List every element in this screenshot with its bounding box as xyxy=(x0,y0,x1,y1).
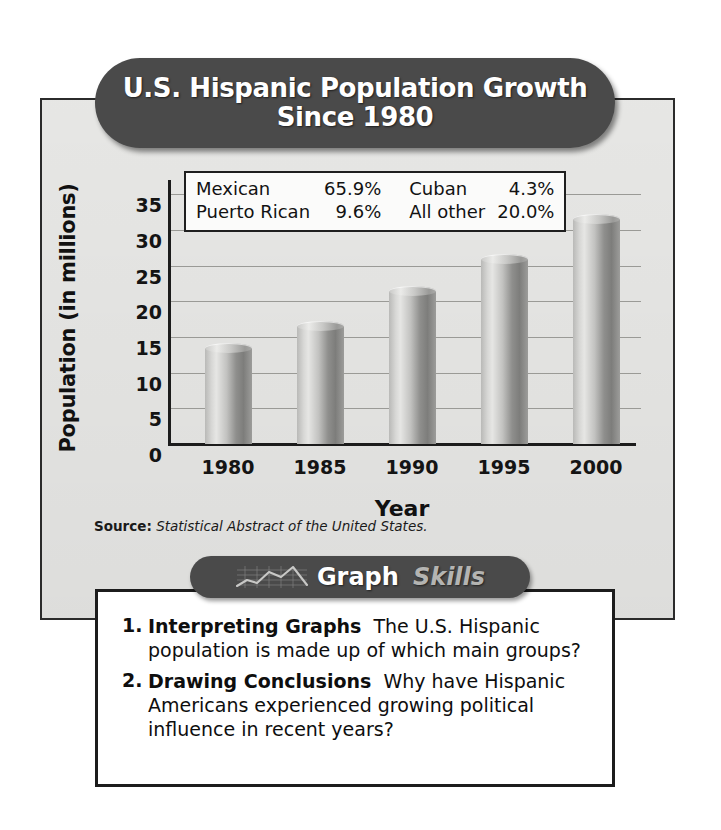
bar-cap xyxy=(205,343,252,353)
y-tick-label: 30 xyxy=(136,230,162,252)
x-tick-label: 1990 xyxy=(386,456,439,478)
question-body: Interpreting Graphs The U.S. Hispanic po… xyxy=(148,614,586,663)
legend-cell: 9.6% xyxy=(324,201,409,224)
y-axis-label: Population (in millions) xyxy=(56,168,80,468)
line-chart-icon xyxy=(235,564,309,590)
y-tick-label: 25 xyxy=(136,266,162,288)
y-tick-label: 35 xyxy=(136,194,162,216)
question-number: 2. xyxy=(122,669,148,742)
skills-word-skills: Skills xyxy=(413,563,485,591)
legend-cell: Mexican xyxy=(196,178,324,201)
question-body: Drawing Conclusions Why have Hispanic Am… xyxy=(148,669,586,742)
questions-list: 1.Interpreting Graphs The U.S. Hispanic … xyxy=(122,614,586,742)
source-note: Source: Statistical Abstract of the Unit… xyxy=(94,518,428,534)
legend-cell: 4.3% xyxy=(497,178,554,201)
source-label: Source: xyxy=(94,518,152,534)
y-tick-label: 0 xyxy=(149,444,162,466)
questions-box: 1.Interpreting Graphs The U.S. Hispanic … xyxy=(95,589,615,787)
gridline xyxy=(171,266,641,267)
x-tick-label: 1985 xyxy=(294,456,347,478)
legend-row: Mexican65.9%Cuban4.3% xyxy=(196,178,554,201)
legend-cell: 20.0% xyxy=(497,201,554,224)
y-tick-label: 5 xyxy=(149,408,162,430)
figure-title-line-1: U.S. Hispanic Population Growth xyxy=(123,74,588,103)
legend-cell: 65.9% xyxy=(324,178,409,201)
bar-cap xyxy=(481,254,528,264)
bar-cap xyxy=(389,286,436,296)
question-term: Drawing Conclusions xyxy=(148,670,371,692)
legend-cell: All other xyxy=(409,201,497,224)
graph-skills-banner: Graph Skills xyxy=(190,556,530,598)
question-item: 1.Interpreting Graphs The U.S. Hispanic … xyxy=(122,614,586,663)
legend-cell: Puerto Rican xyxy=(196,201,324,224)
y-tick-label: 15 xyxy=(136,337,162,359)
figure-title-line-2: Since 1980 xyxy=(277,103,434,132)
figure-title-banner: U.S. Hispanic Population Growth Since 19… xyxy=(95,58,615,148)
bar xyxy=(297,326,344,444)
x-tick-label: 1995 xyxy=(478,456,531,478)
y-tick-label: 20 xyxy=(136,301,162,323)
x-tick-label: 1980 xyxy=(202,456,255,478)
bar-chart: Population (in millions) 05101520253035 … xyxy=(40,98,675,620)
bar xyxy=(389,291,436,444)
bar-cap xyxy=(573,214,620,224)
question-number: 1. xyxy=(122,614,148,663)
source-value: Statistical Abstract of the United State… xyxy=(156,518,427,534)
x-tick-label: 2000 xyxy=(570,456,623,478)
bar xyxy=(481,259,528,445)
question-term: Interpreting Graphs xyxy=(148,615,361,637)
bar xyxy=(573,219,620,444)
bar xyxy=(205,348,252,444)
legend-row: Puerto Rican9.6%All other20.0% xyxy=(196,201,554,224)
question-item: 2.Drawing Conclusions Why have Hispanic … xyxy=(122,669,586,742)
y-tick-label: 10 xyxy=(136,373,162,395)
y-axis-line xyxy=(168,180,171,444)
legend-cell: Cuban xyxy=(409,178,497,201)
skills-word-graph: Graph xyxy=(317,563,399,591)
chart-legend: Mexican65.9%Cuban4.3%Puerto Rican9.6%All… xyxy=(184,171,566,232)
bar-cap xyxy=(297,321,344,331)
